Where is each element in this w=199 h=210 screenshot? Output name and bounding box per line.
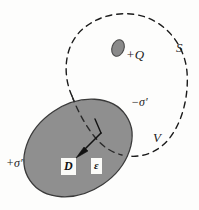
physics-diagram: +Q S −σ′ V +σ′ D ε <box>0 0 199 210</box>
label-free-charge: +Q <box>126 48 144 61</box>
label-bound-positive-charge: +σ′ <box>6 157 23 169</box>
label-volume: V <box>153 131 161 144</box>
dielectric-body <box>5 79 150 210</box>
label-permittivity: ε <box>91 158 102 174</box>
label-displacement-field: D <box>61 158 76 175</box>
label-bound-negative-charge: −σ′ <box>131 96 148 108</box>
label-surface: S <box>176 41 183 54</box>
point-charge-marker <box>109 38 126 58</box>
diagram-canvas <box>0 0 199 210</box>
